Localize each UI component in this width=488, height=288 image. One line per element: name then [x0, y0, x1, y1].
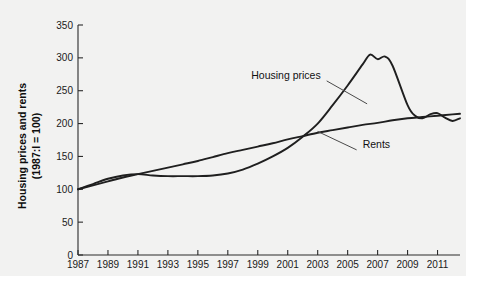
- annotation-leader-line: [327, 81, 367, 104]
- x-tick-label: 1997: [217, 259, 240, 270]
- y-tick-label: 150: [56, 151, 73, 162]
- y-axis-title: Housing prices and rents (1987:I = 100): [16, 83, 42, 209]
- x-tick-label: 2001: [277, 259, 300, 270]
- x-tick-label: 2007: [366, 259, 389, 270]
- bottom-margin: [0, 276, 488, 288]
- x-tick-label: 1991: [127, 259, 150, 270]
- x-tick-label: 2003: [307, 259, 330, 270]
- x-tick-label: 2005: [337, 259, 360, 270]
- chart-figure: Housing prices and rents (1987:I = 100) …: [0, 0, 488, 288]
- y-tick-label: 200: [56, 118, 73, 129]
- x-tick-label: 2011: [427, 259, 449, 270]
- y-tick-label: 250: [56, 85, 73, 96]
- x-tick-label: 1987: [67, 259, 90, 270]
- right-margin: [466, 0, 488, 288]
- series-line-rents: [78, 114, 460, 190]
- y-tick-label: 100: [56, 184, 73, 195]
- x-tick-label: 1993: [157, 259, 180, 270]
- y-axis-title-line1: Housing prices and rents: [16, 83, 28, 209]
- axes: [78, 25, 460, 255]
- annotation-label-housing-prices: Housing prices: [251, 69, 320, 81]
- x-tick-label: 1999: [247, 259, 270, 270]
- y-axis-title-line2: (1987:I = 100): [30, 113, 42, 179]
- annotation-label-rents: Rents: [363, 138, 390, 150]
- housing-prices-rents-line-chart: Housing prices and rents (1987:I = 100) …: [0, 0, 488, 288]
- x-tick-label: 1995: [187, 259, 210, 270]
- series-annotations: Housing pricesRents: [251, 69, 390, 150]
- y-axis-ticks: 050100150200250300350: [56, 20, 83, 261]
- y-tick-label: 350: [56, 20, 73, 31]
- x-tick-label: 1989: [97, 259, 120, 270]
- x-axis-ticks: 1987198919911993199519971999200120032005…: [67, 250, 449, 270]
- annotation-leader-line: [318, 131, 357, 149]
- y-tick-label: 300: [56, 52, 73, 63]
- x-tick-label: 2009: [396, 259, 419, 270]
- y-tick-label: 50: [62, 217, 74, 228]
